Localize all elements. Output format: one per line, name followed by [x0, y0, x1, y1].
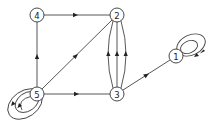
- arrowhead-icon: [143, 74, 149, 79]
- node-2[interactable]: 2: [110, 8, 124, 22]
- node-label: 2: [114, 11, 119, 21]
- node-4[interactable]: 4: [30, 8, 44, 22]
- edge-3-to-1: [123, 60, 170, 90]
- node-label: 5: [34, 90, 39, 100]
- node-label: 3: [114, 90, 119, 100]
- arrowhead-icon: [35, 54, 39, 59]
- graph-canvas: 1 2 3 4 5: [0, 0, 212, 128]
- edges-3-to-2: [106, 21, 128, 88]
- node-label: 4: [34, 11, 39, 21]
- arrowhead-icon: [194, 53, 199, 57]
- arrowhead-icon: [124, 51, 128, 56]
- arrowhead-icon: [73, 13, 78, 17]
- edge-5-to-2: [42, 20, 112, 89]
- arrowhead-icon: [115, 51, 119, 56]
- edge-5-to-4: [35, 22, 39, 87]
- node-5[interactable]: 5: [30, 87, 44, 101]
- node-1[interactable]: 1: [169, 49, 183, 63]
- arrowhead-icon: [18, 103, 23, 108]
- edge-4-to-2: [44, 13, 110, 17]
- node-3[interactable]: 3: [110, 87, 124, 101]
- edge-5-to-3: [44, 92, 110, 96]
- node-label: 1: [173, 52, 178, 62]
- arrowhead-icon: [74, 92, 79, 96]
- arrowhead-icon: [106, 51, 110, 56]
